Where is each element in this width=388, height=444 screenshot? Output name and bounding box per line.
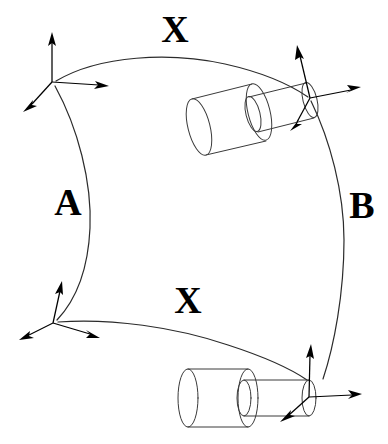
surface-patch-edges (55, 57, 344, 380)
diagram-canvas: X X A B (0, 0, 388, 444)
bottom-peg-back-ellipse (237, 380, 251, 416)
top-peg-bottom-line (258, 118, 314, 132)
right-edge-curve-b (311, 101, 344, 379)
top-left-axis-right-line (52, 82, 99, 85)
bottom-right-axis-up-line (309, 355, 310, 397)
bottom-left-axis-downleft-arrowhead (19, 331, 34, 340)
label-bottom-transform-x: X (174, 279, 201, 321)
top-right-axis-up-arrowhead (295, 45, 304, 60)
top-left-frame (23, 32, 109, 112)
bottom-body-front-ellipse (238, 369, 258, 427)
top-right-frame (290, 45, 361, 131)
bottom-left-axis-downleft-line (29, 323, 53, 335)
label-right-transform-b: B (349, 184, 374, 226)
top-edge-curve (56, 57, 308, 97)
ax-xb-diagram: X X A B (0, 0, 388, 444)
label-top-transform-x: X (161, 8, 188, 50)
top-body-front-ellipse (241, 81, 276, 143)
top-right-axis-right-line (310, 90, 351, 98)
top-body-top-line (192, 84, 252, 99)
bottom-body-back-ellipse (178, 369, 198, 427)
top-right-axis-downleft-arrowhead (290, 119, 302, 131)
bottom-edge-curve (58, 321, 307, 380)
top-body-bottom-line (206, 141, 266, 155)
top-left-axis-downleft-line (32, 82, 52, 104)
bottom-right-frame (280, 344, 362, 422)
top-body-back-ellipse (181, 96, 216, 158)
top-left-axis-downleft-arrowhead (23, 100, 37, 112)
bottom-right-axis-downleft-line (289, 397, 309, 415)
bottom-left-axis-downright-line (53, 323, 90, 334)
bottom-peg-assembly (178, 369, 316, 427)
top-right-axis-right-arrowhead (346, 85, 361, 93)
bottom-left-frame (19, 281, 100, 340)
label-left-transform-a: A (54, 181, 82, 223)
